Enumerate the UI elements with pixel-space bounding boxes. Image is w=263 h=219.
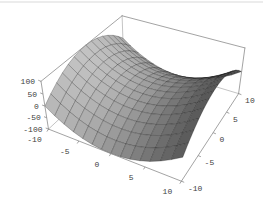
z-axis-tick-label: -100 xyxy=(23,125,42,134)
y-axis-tick-label: -5 xyxy=(205,158,215,167)
axes-box-edge xyxy=(122,16,245,48)
tick-mark xyxy=(239,94,242,95)
tick-mark xyxy=(180,181,182,184)
tick-mark xyxy=(181,181,184,182)
tick-mark xyxy=(198,156,201,157)
x-axis-tick-label: -10 xyxy=(27,135,42,144)
tick-mark xyxy=(213,133,216,134)
x-axis-tick-label: -5 xyxy=(60,147,70,156)
tick-mark xyxy=(77,141,79,144)
z-axis-tick-label: -50 xyxy=(26,113,41,122)
y-axis-tick-label: 10 xyxy=(245,96,255,105)
z-axis-tick-label: 0 xyxy=(34,102,39,111)
y-axis-tick-label: -10 xyxy=(188,184,203,193)
plot3d-figure: -10-50510-10-50510100500-50-100 xyxy=(0,0,263,219)
y-axis-tick-label: 0 xyxy=(220,135,225,144)
tick-mark xyxy=(144,167,146,170)
z-axis-tick-label: 50 xyxy=(27,90,37,99)
tick-mark xyxy=(47,129,49,132)
z-axis-tick-label: 100 xyxy=(21,77,36,86)
x-axis-tick-label: 5 xyxy=(129,173,134,182)
x-axis-tick-label: 10 xyxy=(163,187,173,196)
tick-mark xyxy=(38,80,41,81)
y-axis-tick-label: 5 xyxy=(233,115,238,124)
tick-mark xyxy=(227,112,230,113)
tick-mark xyxy=(109,154,111,157)
x-axis-tick-label: 0 xyxy=(94,160,99,169)
surface-plot-canvas: -10-50510-10-50510100500-50-100 xyxy=(0,0,263,219)
